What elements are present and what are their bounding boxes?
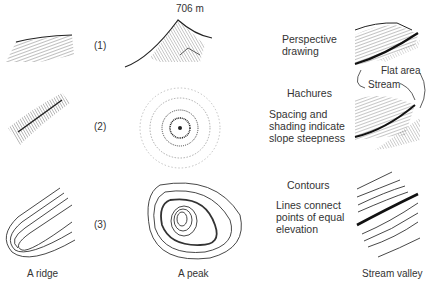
flat-area-pointer-arrow [420, 73, 425, 108]
contours-description: Lines connect points of equal elevation [276, 199, 344, 235]
title-line: drawing [282, 45, 337, 57]
stream-annotation: Stream [368, 79, 400, 90]
description-line: points of equal [276, 211, 344, 223]
peak-elevation-label: 706 m [176, 3, 204, 14]
peak-perspective-drawing [125, 20, 212, 67]
caption-peak: A peak [178, 268, 209, 279]
contours-title: Contours [287, 179, 330, 191]
flat-area-annotation: Flat area [381, 65, 420, 76]
description-line: shading indicate [269, 120, 345, 132]
hachures-title: Hachures [287, 87, 332, 99]
stream-valley-contours [357, 172, 420, 257]
description-line: Spacing and [269, 108, 345, 120]
perspective-drawing-title: Perspective drawing [282, 33, 337, 57]
ridge-hachures [8, 93, 70, 145]
caption-stream-valley: Stream valley [362, 268, 423, 279]
ridge-contours [6, 188, 75, 257]
description-line: elevation [276, 223, 344, 235]
stream-valley-perspective-drawing [355, 23, 420, 65]
hachures-description: Spacing and shading indicate slope steep… [269, 108, 345, 144]
stream-valley-hachures [355, 96, 420, 150]
row-3-number: (3) [94, 219, 106, 230]
row-1-number: (1) [94, 40, 106, 51]
row-2-number: (2) [94, 121, 106, 132]
peak-contours [148, 183, 241, 259]
stream-pointer-arrow [357, 70, 365, 88]
title-line: Perspective [282, 33, 337, 45]
caption-ridge: A ridge [27, 268, 58, 279]
ridge-perspective-drawing [6, 35, 74, 62]
diagram-illustrations [0, 0, 431, 287]
description-line: slope steepness [269, 132, 345, 144]
peak-hachures [140, 88, 220, 168]
description-line: Lines connect [276, 199, 344, 211]
